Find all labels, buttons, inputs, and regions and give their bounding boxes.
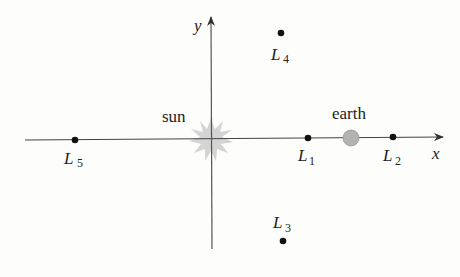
l4-point [278, 30, 285, 37]
svg-text:4: 4 [283, 52, 289, 66]
earth-icon [343, 130, 359, 146]
svg-text:5: 5 [77, 156, 83, 170]
svg-text:3: 3 [285, 221, 291, 235]
diagram-svg: y x sun earth L 1 L 2 L 3 L 4 L 5 [0, 0, 460, 277]
l3-point [280, 238, 287, 245]
svg-text:L: L [297, 146, 307, 165]
svg-text:2: 2 [395, 154, 401, 168]
earth-label: earth [332, 104, 366, 123]
svg-text:L: L [270, 45, 280, 64]
l1-label: L 1 [297, 146, 315, 168]
svg-text:1: 1 [309, 154, 315, 168]
lagrange-diagram: y x sun earth L 1 L 2 L 3 L 4 L 5 [0, 0, 460, 277]
x-axis [25, 137, 443, 140]
l2-point [390, 134, 397, 141]
l4-label: L 4 [270, 45, 289, 66]
l2-label: L 2 [382, 146, 401, 168]
l3-label: L 3 [272, 213, 291, 235]
x-axis-label: x [431, 144, 440, 163]
y-axis-label: y [192, 16, 202, 35]
l1-point [305, 135, 312, 142]
y-axis [211, 17, 212, 249]
l5-point [72, 137, 79, 144]
svg-text:L: L [63, 149, 73, 168]
sun-label: sun [162, 107, 186, 126]
svg-text:L: L [272, 213, 282, 232]
svg-text:L: L [382, 146, 392, 165]
l5-label: L 5 [63, 149, 83, 170]
